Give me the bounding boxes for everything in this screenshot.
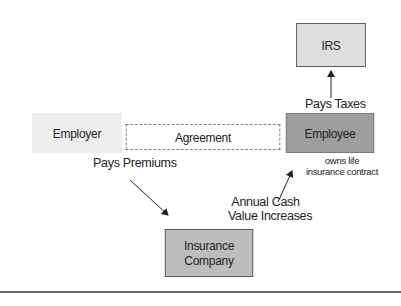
- bottom-divider: [0, 291, 401, 293]
- cash-value-label: Annual Cash Value Increases: [228, 195, 303, 223]
- owns-line1: owns life: [304, 155, 380, 166]
- cash-value-line1: Annual Cash: [228, 195, 303, 209]
- pays-taxes-label: Pays Taxes: [305, 97, 366, 111]
- pays-premiums-label: Pays Premiums: [93, 156, 177, 170]
- cash-value-line2: Value Increases: [228, 209, 303, 223]
- owns-line2: insurance contract: [304, 166, 380, 177]
- arrows-layer: [0, 0, 401, 306]
- owns-contract-note: owns life insurance contract: [304, 155, 380, 177]
- pays-premiums-arrow: [130, 180, 168, 215]
